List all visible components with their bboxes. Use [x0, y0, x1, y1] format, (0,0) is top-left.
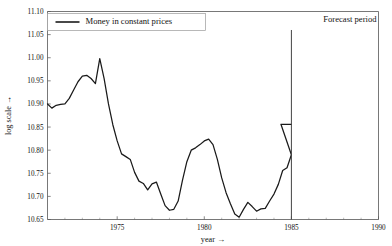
x-tick-label: 1980	[197, 224, 212, 232]
chart-figure: 10.6510.7010.7510.8010.8510.9010.9511.00…	[0, 0, 392, 246]
y-tick-label: 11.05	[28, 31, 44, 39]
chart-legend: Money in constant prices	[48, 14, 206, 31]
line-chart: 10.6510.7010.7510.8010.8510.9010.9511.00…	[0, 0, 392, 246]
y-tick-label: 11.00	[28, 54, 44, 62]
y-axis-title: log scale →	[4, 96, 13, 135]
x-tick-label: 1985	[284, 224, 299, 232]
x-tick-label: 1990	[371, 224, 386, 232]
x-tick-label: 1975	[110, 224, 125, 232]
y-tick-label: 10.80	[27, 147, 44, 155]
legend-label-money-in-constant-prices: Money in constant prices	[86, 16, 173, 26]
forecast-period-label: Forecast period	[323, 14, 377, 24]
y-tick-label: 11.10	[28, 8, 44, 16]
y-tick-label: 10.70	[27, 193, 44, 201]
y-tick-label: 10.65	[27, 216, 44, 224]
y-tick-label: 10.95	[27, 77, 44, 85]
y-tick-label: 10.85	[27, 124, 44, 132]
y-tick-label: 10.90	[27, 100, 44, 108]
x-axis-title: year →	[201, 235, 225, 244]
y-tick-label: 10.75	[27, 170, 44, 178]
chart-background	[0, 0, 392, 246]
